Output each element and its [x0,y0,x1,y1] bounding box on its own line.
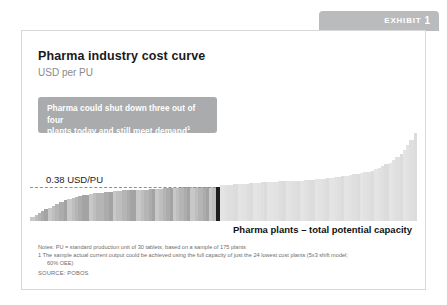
page-title: Pharma industry cost curve [38,49,205,63]
xaxis-title: Pharma plants – total potential capacity [233,224,412,235]
page-subtitle: USD per PU [38,67,93,78]
bar [212,187,217,221]
callout-box: Pharma could shut down three out of four… [38,97,217,133]
footnote-source: SOURCE: POBOS [38,269,418,277]
exhibit-tab-number: 1 [424,16,430,26]
exhibit-page: EXHIBIT 1 Pharma industry cost curve USD… [0,0,447,305]
bar [96,193,104,221]
exhibit-tab-label: EXHIBIT [384,17,421,25]
threshold-dashed-line [30,187,216,188]
footnote-1: 1 The sample actual current output could… [38,251,418,259]
footnote-1-cont: 60% OEE) [38,259,418,267]
chart-plot-area: 0.38 USD/PU [30,131,418,221]
cost-curve-chart: 0.38 USD/PU [30,131,418,221]
bar [414,133,417,221]
footnotes: Notes: PU = standard production unit of … [38,243,418,277]
footnote-notes: Notes: PU = standard production unit of … [38,243,418,251]
callout-line-1: Pharma could shut down three out of four [47,103,195,125]
exhibit-tab: EXHIBIT 1 [319,11,439,31]
threshold-label: 0.38 USD/PU [46,174,103,185]
exhibit-card: Pharma industry cost curve USD per PU Ph… [21,30,426,290]
